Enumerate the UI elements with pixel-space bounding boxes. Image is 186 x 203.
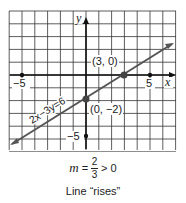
point-label-x-intercept: (3, 0) [92, 55, 118, 67]
slope-fraction: 2 3 [91, 157, 98, 180]
fraction-denominator: 3 [92, 170, 98, 180]
x-tick-label-pos5: 5 [146, 77, 152, 89]
slope-comparison: > 0 [101, 162, 117, 174]
x-axis-label: x [164, 75, 171, 89]
slope-caption: m = 2 3 > 0 [0, 153, 186, 183]
coordinate-graph: y x −5 5 −5 (3, 0) (0, −2) 2x−3y=6 [0, 0, 186, 152]
y-tick-label-neg5: −5 [67, 130, 80, 142]
y-axis-arrow-icon [83, 17, 89, 24]
tick-dot-y-neg5 [84, 134, 88, 138]
point-label-y-intercept: (0, −2) [90, 103, 122, 115]
x-tick-label-neg5: −5 [13, 77, 26, 89]
point-x-intercept [121, 72, 128, 79]
equals-sign: = [82, 162, 88, 174]
fraction-numerator: 2 [92, 157, 98, 167]
point-y-intercept [83, 96, 90, 103]
y-axis-label: y [75, 11, 82, 25]
line-rises-note: Line “rises” [0, 185, 186, 197]
slope-symbol: m [69, 160, 78, 176]
